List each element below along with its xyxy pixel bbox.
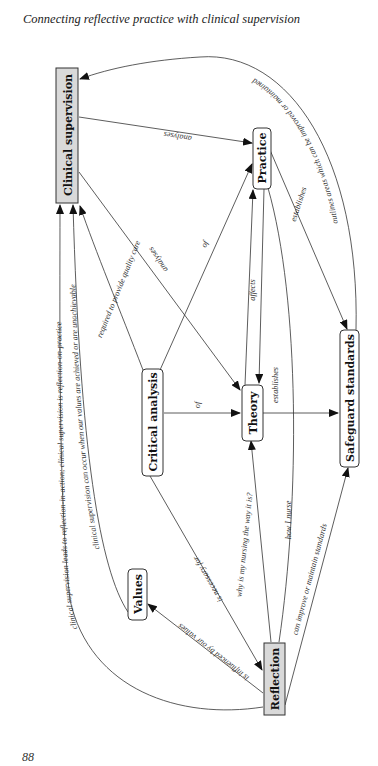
node-reflection[interactable]: Reflection	[264, 643, 285, 715]
edge-label-required-quality-care: required to provide quality care	[95, 239, 142, 339]
node-label: Critical analysis	[147, 372, 160, 471]
node-theory[interactable]: Theory	[242, 385, 263, 441]
edge-critical-analysis-to-practice	[160, 164, 252, 370]
edge-reflection-to-theory	[251, 441, 271, 642]
edge-label-why-nursing: why is my nursing the way it is?	[235, 491, 255, 597]
node-label: Clinical supervision	[62, 74, 75, 196]
edge-label-of-practice: of	[199, 238, 211, 249]
edge-label-establishes-theory: establishes	[271, 367, 280, 403]
node-values[interactable]: Values	[128, 569, 147, 620]
node-clinical-supervision[interactable]: Clinical supervision	[56, 68, 78, 203]
edge-critical-analysis-to-clinical-supervision	[80, 206, 143, 370]
edge-label-is-necessary-for: is necessary for	[191, 554, 225, 604]
node-label: Theory	[247, 391, 260, 434]
node-label: Practice	[256, 133, 269, 184]
edge-label-improve-standards: can improve or maintain standards	[290, 523, 328, 636]
edge-practice-to-theory	[259, 189, 264, 383]
concept-map: analyses analyses required to provide qu…	[0, 0, 378, 766]
node-label: Values	[132, 574, 145, 615]
edge-labels: analyses analyses required to provide qu…	[54, 64, 345, 700]
edge-reflection-to-safeguard-standards	[285, 468, 348, 705]
edge-label-how-i-nurse: how I nurse	[284, 500, 293, 539]
edge-label-establishes-practice: establishes	[289, 186, 309, 223]
edge-label-analyses-theory: analyses	[146, 245, 169, 273]
edge-label-affects: affects	[248, 279, 257, 300]
node-critical-analysis[interactable]: Critical analysis	[142, 369, 163, 476]
edge-clinical-supervision-to-theory	[79, 172, 240, 390]
edge-label-of-theory: of	[193, 400, 202, 408]
node-label: Reflection	[269, 648, 282, 710]
node-safeguard-standards[interactable]: Safeguard standards	[340, 330, 359, 467]
node-label: Safeguard standards	[344, 334, 357, 462]
page-number: 88	[22, 750, 34, 765]
edge-reflection-to-practice	[268, 188, 294, 642]
node-practice[interactable]: Practice	[253, 128, 271, 189]
